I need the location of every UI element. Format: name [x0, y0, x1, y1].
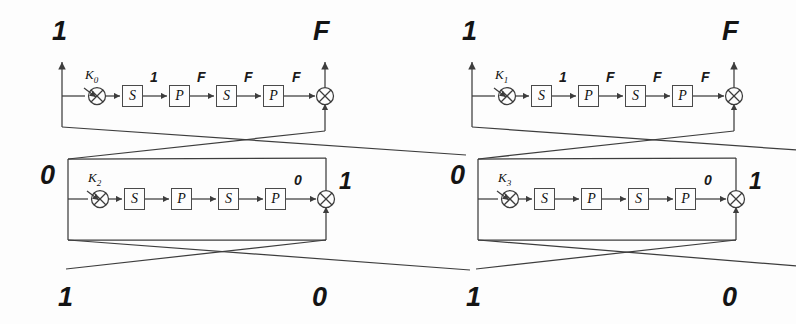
- p-box-round3-2: P: [675, 188, 696, 210]
- p-box-round3-1: P: [581, 188, 602, 210]
- diagram-canvas: K0 S P S P 1 F F F 1 F K1 S P S P 1 F F …: [0, 0, 796, 324]
- wire-label-round1-3: F: [653, 70, 662, 84]
- corner-label-mid-center-right: 0: [450, 162, 465, 189]
- corner-label-mid-left: 0: [40, 162, 55, 189]
- wire-label-round0-2: F: [197, 70, 206, 84]
- corner-label-top-right: F: [722, 18, 739, 45]
- s-box-round2-1: S: [124, 188, 145, 210]
- wire-label-round3-4: 0: [704, 173, 712, 187]
- corner-label-bottom-left: 1: [58, 284, 73, 311]
- corner-label-top-right-left: 1: [462, 18, 477, 45]
- s-box-round1-1: S: [531, 85, 552, 107]
- s-box-round0-2: S: [216, 85, 237, 107]
- corner-label-mid-center-left: 1: [339, 170, 352, 193]
- corner-label-bottom-right: 0: [722, 284, 737, 311]
- round-key-label-3: K3: [498, 171, 511, 188]
- s-box-round1-2: S: [625, 85, 646, 107]
- round-key-label-1: K1: [495, 68, 508, 85]
- round-key-label-2: K2: [88, 171, 101, 188]
- s-box-round2-2: S: [218, 188, 239, 210]
- p-box-round1-1: P: [578, 85, 599, 107]
- wire-label-round1-1: 1: [559, 70, 567, 84]
- p-box-round0-1: P: [169, 85, 190, 107]
- s-box-round0-1: S: [122, 85, 143, 107]
- corner-label-bottom-center-left: 0: [312, 284, 327, 311]
- wire-label-round2-4: 0: [294, 173, 302, 187]
- wiring-layer: [0, 0, 796, 324]
- wire-label-round0-4: F: [292, 70, 301, 84]
- wire-label-round0-3: F: [244, 70, 253, 84]
- round-key-label-0: K0: [85, 68, 98, 85]
- wire-label-round1-2: F: [606, 70, 615, 84]
- wire-label-round1-4: F: [701, 70, 710, 84]
- p-box-round2-2: P: [265, 188, 286, 210]
- corner-label-top-left: 1: [52, 18, 67, 45]
- p-box-round1-2: P: [672, 85, 693, 107]
- corner-label-mid-right: 1: [749, 170, 762, 193]
- wire-label-round0-1: 1: [150, 70, 158, 84]
- corner-label-top-mid-right: F: [313, 18, 330, 45]
- p-box-round2-1: P: [171, 188, 192, 210]
- s-box-round3-1: S: [534, 188, 555, 210]
- p-box-round0-2: P: [263, 85, 284, 107]
- s-box-round3-2: S: [628, 188, 649, 210]
- corner-label-bottom-center-right: 1: [466, 284, 481, 311]
